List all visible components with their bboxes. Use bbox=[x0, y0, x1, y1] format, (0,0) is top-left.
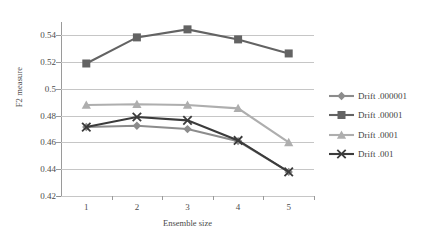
legend-marker-diamond-icon bbox=[328, 89, 355, 103]
y-axis-tick-label: 0.52 bbox=[22, 57, 56, 67]
legend-marker-x-icon bbox=[328, 147, 355, 161]
x-axis-tick-mark bbox=[112, 196, 113, 200]
data-point-marker bbox=[285, 49, 293, 57]
data-point-marker bbox=[133, 122, 141, 130]
x-axis-tick-mark bbox=[162, 196, 163, 200]
series-triangle bbox=[82, 100, 294, 146]
y-axis-tick-label: 0.48 bbox=[22, 111, 56, 121]
x-axis-tick-label: 4 bbox=[226, 202, 250, 212]
y-axis-tick-label: 0.42 bbox=[22, 191, 56, 201]
x-axis-title: Ensemble size bbox=[61, 218, 314, 228]
data-point-marker bbox=[183, 125, 191, 133]
data-point-marker bbox=[184, 25, 192, 33]
data-point-marker bbox=[133, 33, 141, 41]
plot-area bbox=[61, 22, 314, 196]
legend-point-marker bbox=[337, 92, 345, 100]
series-x bbox=[82, 113, 293, 176]
x-axis-tick-mark bbox=[213, 196, 214, 200]
legend-label: Drift .0001 bbox=[355, 130, 398, 140]
data-point-marker bbox=[234, 35, 242, 43]
legend-label: Drift .000001 bbox=[355, 91, 407, 101]
x-axis-tick-mark bbox=[263, 196, 264, 200]
x-axis-tick-label: 1 bbox=[74, 202, 98, 212]
data-point-marker bbox=[82, 59, 90, 67]
series-diamond bbox=[82, 122, 293, 177]
chart-container: F2 measure 0.420.440.460.480.50.520.54 1… bbox=[0, 0, 434, 246]
y-axis-tick-label: 0.46 bbox=[22, 137, 56, 147]
legend: Drift .000001Drift .00001Drift .0001Drif… bbox=[328, 86, 434, 164]
x-axis-tick-labels: 12345 bbox=[61, 202, 314, 216]
legend-item[interactable]: Drift .0001 bbox=[328, 125, 434, 145]
x-axis-tick-label: 5 bbox=[277, 202, 301, 212]
legend-marker-square-icon bbox=[328, 108, 355, 122]
legend-marker-triangle-icon bbox=[328, 128, 355, 142]
y-axis-tick-label: 0.54 bbox=[22, 30, 56, 40]
series-square bbox=[82, 25, 292, 67]
x-axis-tick-mark bbox=[314, 196, 315, 200]
legend-point-marker bbox=[338, 111, 346, 119]
y-axis-tick-label: 0.44 bbox=[22, 164, 56, 174]
x-axis-tick-label: 3 bbox=[176, 202, 200, 212]
series-layer bbox=[61, 22, 314, 196]
series-line bbox=[86, 104, 288, 142]
legend-item[interactable]: Drift .00001 bbox=[328, 106, 434, 126]
legend-label: Drift .001 bbox=[355, 149, 394, 159]
x-axis-tick-label: 2 bbox=[125, 202, 149, 212]
legend-item[interactable]: Drift .001 bbox=[328, 145, 434, 165]
y-axis-tick-labels: 0.420.440.460.480.50.520.54 bbox=[22, 0, 56, 246]
legend-item[interactable]: Drift .000001 bbox=[328, 86, 434, 106]
y-axis-tick-label: 0.5 bbox=[22, 84, 56, 94]
legend-label: Drift .00001 bbox=[355, 110, 403, 120]
series-line bbox=[86, 29, 288, 63]
